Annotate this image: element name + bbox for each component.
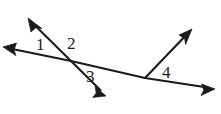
angle-label-1: 1 xyxy=(36,36,45,53)
geometry-figure: 1 2 3 4 xyxy=(0,0,221,114)
angle-label-2: 2 xyxy=(67,35,76,52)
angle-label-3: 3 xyxy=(86,68,95,85)
diagram-background xyxy=(0,0,221,114)
angle-label-4: 4 xyxy=(162,64,171,81)
geometry-canvas xyxy=(0,0,221,114)
